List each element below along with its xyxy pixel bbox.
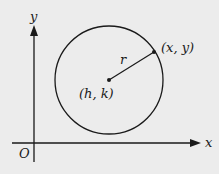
- y-axis-arrow-icon: [30, 25, 38, 36]
- origin-label: O: [19, 146, 30, 161]
- y-axis-label: y: [29, 9, 38, 24]
- radius-line: [109, 52, 154, 80]
- x-axis-label: x: [205, 135, 213, 150]
- circle-diagram: y x O r (x, y) (h, k): [0, 0, 219, 174]
- circle-point: [152, 50, 156, 54]
- radius-label: r: [120, 52, 127, 67]
- center-point: [107, 78, 111, 82]
- point-label: (x, y): [161, 40, 194, 55]
- x-axis-arrow-icon: [190, 139, 201, 147]
- center-label: (h, k): [79, 86, 114, 101]
